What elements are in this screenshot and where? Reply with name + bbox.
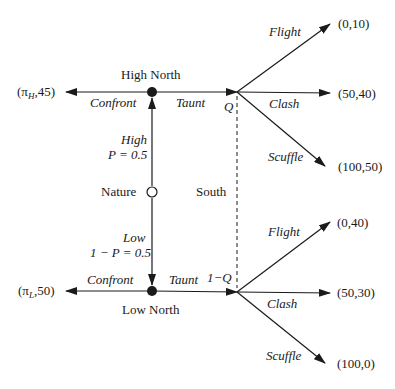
nature-label: Nature [101, 185, 136, 198]
low-scuffle-label: Scuffle [266, 349, 301, 362]
belief-1-minus-q-label: 1−Q [207, 271, 232, 284]
payoff-high-scuffle: (100,50) [338, 160, 382, 173]
payoff-high-flight: (0,10) [338, 17, 369, 30]
edge-low-taunt [152, 291, 237, 292]
belief-q-label: Q [224, 100, 233, 113]
high-clash-label: Clash [269, 97, 299, 110]
low-confront-label: Confront [87, 273, 133, 286]
high-north-node [147, 87, 157, 97]
nature-low-label: Low [123, 231, 145, 244]
payoff-low-scuffle: (100,0) [337, 357, 375, 370]
payoff-low-clash: (50,30) [337, 286, 375, 299]
payoff-high-clash: (50,40) [338, 87, 376, 100]
low-clash-label: Clash [267, 297, 297, 310]
low-north-label: Low North [122, 303, 179, 316]
payoff-low-confront: (πL,50) [18, 284, 55, 297]
high-scuffle-label: Scuffle [268, 150, 303, 163]
edge-high-clash [237, 92, 330, 93]
south-label: South [196, 185, 226, 198]
nature-high-prob: P = 0.5 [108, 148, 147, 161]
edge-low-clash [237, 292, 330, 293]
low-taunt-label: Taunt [169, 273, 198, 286]
low-flight-label: Flight [268, 225, 300, 238]
high-flight-label: Flight [269, 25, 301, 38]
payoff-high-confront: (πH,45) [17, 85, 55, 98]
high-north-label: High North [121, 68, 181, 81]
high-taunt-label: Taunt [176, 96, 205, 109]
nature-node [147, 187, 157, 197]
low-north-node [147, 286, 157, 296]
nature-high-label: High [121, 133, 147, 146]
high-confront-label: Confront [90, 96, 136, 109]
payoff-low-flight: (0,40) [337, 216, 368, 229]
nature-low-prob: 1 − P = 0.5 [90, 246, 151, 259]
